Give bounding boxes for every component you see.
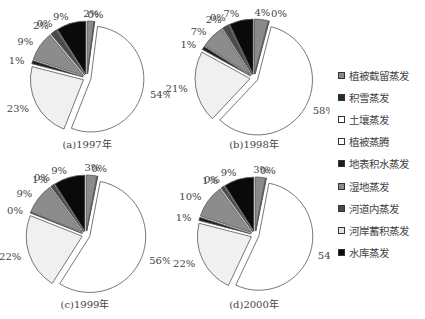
- slice-percent-label: 1%: [176, 212, 192, 223]
- slice-percent-label: 0%: [260, 165, 276, 176]
- legend-swatch-icon: [338, 94, 345, 101]
- slice-percent-label: 23%: [7, 103, 29, 114]
- slice-percent-label: 1%: [9, 55, 25, 66]
- pie-chart-1997: 2%0%54%23%1%9%2%0%9%: [0, 0, 170, 140]
- legend-swatch-icon: [338, 205, 345, 212]
- pie-svg-1998: 4%0%58%21%1%7%2%0%7%: [160, 0, 330, 140]
- slice-percent-label: 9%: [16, 188, 32, 199]
- slice-percent-label: 9%: [221, 167, 237, 178]
- pie-svg-2000: 3%0%54%22%1%10%1%0%9%: [160, 158, 330, 298]
- legend-item: 土壤蒸发: [338, 108, 409, 130]
- slice-percent-label: 0%: [7, 205, 23, 216]
- slice-percent-label: 58%: [313, 105, 330, 116]
- slice-percent-label: 0%: [37, 18, 53, 29]
- chart-legend: 植被截留蒸发 积雪蒸发 土壤蒸发 植被蒸腾 地表积水蒸发 湿地蒸发 河道内蒸发 …: [338, 64, 409, 264]
- slice-percent-label: 9%: [17, 36, 33, 47]
- pie-caption-1999: (c)1999年: [25, 296, 145, 311]
- pie-svg-1999: 3%0%56%22%0%9%1%0%9%: [0, 158, 170, 298]
- slice-percent-label: 7%: [224, 8, 240, 19]
- slice-percent-label: 0%: [34, 172, 50, 183]
- legend-swatch-icon: [338, 160, 345, 167]
- pie-caption-2000: (d)2000年: [194, 296, 314, 311]
- slice-percent-label: 9%: [53, 11, 69, 22]
- slice-percent-label: 54%: [318, 250, 330, 261]
- legend-swatch-icon: [338, 72, 345, 79]
- legend-swatch-icon: [338, 183, 345, 190]
- slice-percent-label: 10%: [179, 191, 201, 202]
- slice-percent-label: 0%: [204, 174, 220, 185]
- legend-swatch-icon: [338, 116, 345, 123]
- slice-percent-label: 22%: [173, 258, 195, 269]
- legend-item: 河道内蒸发: [338, 197, 409, 219]
- slice-percent-label: 21%: [166, 83, 188, 94]
- legend-swatch-icon: [338, 227, 345, 234]
- slice-percent-label: 22%: [0, 251, 21, 262]
- slice-percent-label: 9%: [51, 165, 67, 176]
- legend-item: 水库蒸发: [338, 242, 409, 264]
- legend-swatch-icon: [338, 249, 345, 256]
- slice-percent-label: 4%: [254, 7, 270, 18]
- pie-caption-1998: (b)1998年: [194, 136, 314, 151]
- legend-swatch-icon: [338, 138, 345, 145]
- pie-chart-1999: 3%0%56%22%0%9%1%0%9%: [0, 158, 170, 298]
- legend-item: 植被截留蒸发: [338, 64, 409, 86]
- slice-percent-label: 7%: [191, 26, 207, 37]
- pie-chart-2000: 3%0%54%22%1%10%1%0%9%: [160, 158, 330, 298]
- slice-percent-label: 1%: [180, 39, 196, 50]
- legend-item: 地表积水蒸发: [338, 153, 409, 175]
- slice-percent-label: 0%: [88, 9, 104, 20]
- legend-item: 积雪蒸发: [338, 86, 409, 108]
- legend-item: 植被蒸腾: [338, 131, 409, 153]
- pie-chart-1998: 4%0%58%21%1%7%2%0%7%: [160, 0, 330, 140]
- slice-percent-label: 0%: [91, 163, 107, 174]
- pie-svg-1997: 2%0%54%23%1%9%2%0%9%: [0, 0, 170, 140]
- legend-item: 湿地蒸发: [338, 175, 409, 197]
- legend-item: 河岸蓄积蒸发: [338, 219, 409, 241]
- slice-percent-label: 0%: [271, 8, 287, 19]
- pie-caption-1997: (a)1997年: [27, 136, 147, 151]
